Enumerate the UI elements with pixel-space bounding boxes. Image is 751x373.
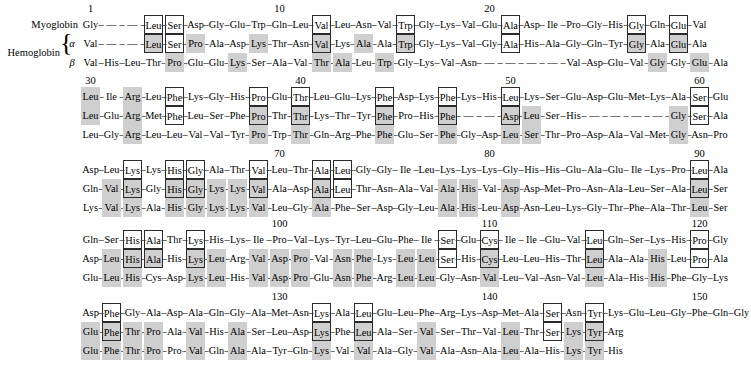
residue-cell: Leu — [690, 179, 709, 198]
position-number: 1 — [88, 2, 93, 15]
residue-cell: His — [480, 87, 499, 106]
residue-cell: Ala — [606, 268, 625, 287]
residue-cell: Asn — [459, 53, 478, 72]
residue-cell: Glu — [312, 268, 331, 287]
residue-cell: Glu — [396, 125, 415, 144]
residue-cell: Ala — [711, 249, 730, 268]
residue-cell: Pro — [144, 322, 163, 341]
gap-cell: — — [102, 15, 121, 34]
residue-cell: Lys — [312, 341, 331, 360]
residue-cell: Val — [564, 268, 583, 287]
residue-cell: Gly — [144, 179, 163, 198]
alignment-row: –––––––––––––––––––––––––––––Gly——LeuSer… — [0, 15, 721, 34]
residue-cell: Glu — [543, 230, 562, 249]
residue-cell: Val — [81, 34, 100, 53]
residue-cell: Ala — [249, 303, 268, 322]
residue-cell: Ala — [333, 303, 352, 322]
residue-cell: Val — [312, 15, 331, 34]
residue-cell: Trp — [396, 15, 415, 34]
residue-cell: Lys — [375, 249, 394, 268]
residue-cell: Ala — [249, 341, 268, 360]
residue-cell: Leu — [207, 268, 226, 287]
residue-cell: Phe — [438, 106, 457, 125]
alignment-row: –––––––––––––––––––––––––GluPheThrProPro… — [0, 341, 721, 360]
residue-cell: Pro — [291, 249, 310, 268]
residue-cell: Thr — [270, 34, 289, 53]
residue-cell: Leu — [501, 341, 520, 360]
residue-cell: Gly — [627, 34, 646, 53]
alignment-row: ––––––––––––––––––––––––––––––LysValLysA… — [0, 198, 721, 217]
residue-cell: Leu — [81, 87, 100, 106]
residue-cell: Thr — [291, 87, 310, 106]
residue-cell: Phe — [102, 341, 121, 360]
residue-cell: Ala — [354, 34, 373, 53]
residue-cell: Leu — [396, 249, 415, 268]
residue-cell: Val — [354, 341, 373, 360]
residue-cell: Val — [480, 268, 499, 287]
residue-cell: Pro — [690, 249, 709, 268]
residue-cell: Cys — [144, 268, 163, 287]
residue-cell: Ala — [312, 179, 331, 198]
residue-cell: Pro — [249, 87, 268, 106]
residue-cell: His — [165, 249, 184, 268]
residue-cell: Glu — [81, 322, 100, 341]
residue-cell: Lys — [144, 160, 163, 179]
residue-cell: Val — [186, 341, 205, 360]
residue-cell: Ala — [207, 160, 226, 179]
residue-cell: Lys — [711, 268, 730, 287]
residue-cell: Gly — [186, 198, 205, 217]
residue-cell: Lys — [123, 160, 142, 179]
residue-cell: Ala — [144, 303, 163, 322]
residue-cell: His — [564, 106, 583, 125]
residue-cell: Ser — [543, 106, 562, 125]
residue-cell: Arg — [123, 87, 142, 106]
residue-cell: Pro — [186, 34, 205, 53]
residue-cell: Ser — [543, 322, 562, 341]
residue-cell: Val — [438, 53, 457, 72]
residue-cell: Tyr — [354, 106, 373, 125]
residue-cell: Leu — [291, 15, 310, 34]
residue-cell: Leu — [333, 15, 352, 34]
residue-cell: Asp — [396, 87, 415, 106]
residue-cell: Leu — [165, 125, 184, 144]
residue-cell: Gly — [669, 125, 688, 144]
alignment-block: 100110120––––––––––––––––––––––––––––––G… — [0, 217, 721, 287]
residue-cell: Glu — [627, 303, 646, 322]
residue-cell: Asp — [270, 249, 289, 268]
residue-cell: Ala — [648, 34, 667, 53]
residue-cell: Ala — [690, 34, 709, 53]
residue-cell: Ala — [186, 303, 205, 322]
residue-cell: Leu — [81, 106, 100, 125]
residue-cell: Leu — [417, 268, 436, 287]
residue-cell: Glu — [102, 106, 121, 125]
residue-cell: Glu — [606, 87, 625, 106]
residue-cell: Ser — [711, 179, 730, 198]
residue-cell: Lys — [417, 87, 436, 106]
gap-cell: — — [522, 53, 541, 72]
residue-cell: Leu — [102, 160, 121, 179]
residue-cell: Ser — [102, 230, 121, 249]
residue-cell: Gly — [501, 160, 520, 179]
residue-cell: Val — [291, 53, 310, 72]
residue-cell: Lys — [438, 160, 457, 179]
residue-cell: Thr — [606, 198, 625, 217]
residue-cell: Thr — [312, 53, 331, 72]
residue-cell: Val — [564, 230, 583, 249]
residue-cell: Val — [312, 249, 331, 268]
residue-cell: Ser — [438, 249, 457, 268]
residue-cell: Pro — [249, 106, 268, 125]
residue-cell: Lys — [123, 198, 142, 217]
residue-cell: Asn — [459, 341, 478, 360]
residue-cell: Leu — [522, 249, 541, 268]
residue-cell: Ala — [522, 341, 541, 360]
residue-cell: Ile — [522, 230, 541, 249]
residue-cell: Glu — [270, 87, 289, 106]
residue-cell: Lys — [186, 230, 205, 249]
residue-cell: Ile — [501, 230, 520, 249]
gap-cell: — — [480, 106, 499, 125]
residue-cell: Ala — [711, 106, 730, 125]
residue-cell: Asn — [522, 198, 541, 217]
residue-cell: Gln — [270, 15, 289, 34]
residue-cell: Val — [564, 53, 583, 72]
residue-cell: Ala — [711, 53, 730, 72]
